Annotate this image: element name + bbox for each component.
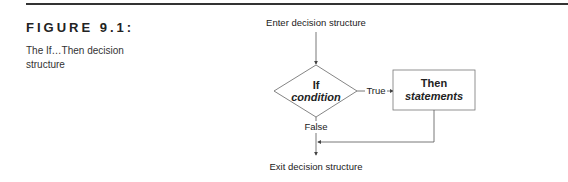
true-label: True — [366, 85, 385, 96]
entry-label: Enter decision structure — [266, 17, 366, 28]
process-subtitle: statements — [405, 90, 463, 102]
decision-title: If — [313, 79, 320, 91]
process-title: Then — [421, 77, 448, 89]
flowchart: Enter decision structure If condition Tr… — [0, 0, 568, 182]
exit-label: Exit decision structure — [270, 161, 363, 172]
false-label: False — [304, 121, 327, 132]
decision-node: If condition — [274, 65, 357, 117]
process-node: Then statements — [393, 70, 475, 110]
decision-subtitle: condition — [291, 91, 341, 103]
return-arrow — [318, 110, 434, 142]
